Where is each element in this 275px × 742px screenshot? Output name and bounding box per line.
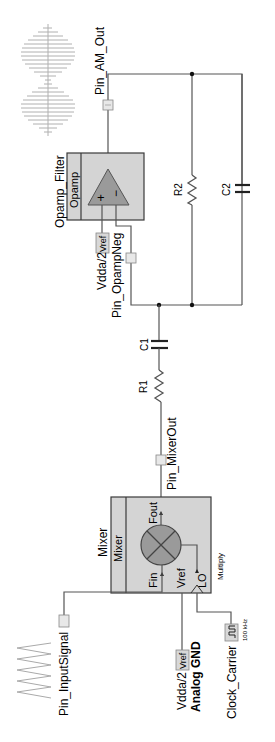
sine-input-waveform-icon: [17, 643, 51, 698]
clock-carrier-net[interactable]: 100 kHz Clock_Carrier: [197, 593, 248, 719]
opamp-plus-symbol: +: [97, 190, 105, 205]
capacitor-c2[interactable]: C2: [221, 74, 250, 196]
analog-gnd-label: Analog GND: [189, 641, 203, 712]
mixer-vref-label: Vref: [175, 567, 187, 588]
pin-tag-icon: [59, 615, 69, 627]
opamp-minus-symbol: −: [109, 190, 123, 197]
c2-label: C2: [221, 183, 232, 196]
vref-tag-label: Vref: [98, 235, 108, 252]
c1-label: C1: [139, 338, 150, 351]
resistor-r1[interactable]: R1: [138, 370, 163, 402]
mixer-block[interactable]: Mixer Fout Fin Vref LO Multiply: [111, 497, 225, 593]
capacitor-c1[interactable]: C1: [139, 305, 168, 370]
vref-tag-label: Vref: [178, 652, 188, 669]
pin-opamp-neg-label[interactable]: Pin_OpampNeg: [110, 233, 124, 318]
clock-carrier-label: Clock_Carrier: [225, 646, 239, 719]
mixer-type-label: Mixer: [112, 535, 124, 562]
junction-dot: [190, 72, 194, 76]
opamp-type-label: Opamp: [68, 172, 80, 208]
mixer-mode-label: Multiply: [216, 553, 225, 580]
pin-am-out-label: Pin_AM_Out: [93, 26, 107, 95]
vdda-label-mixer: Vdda/2: [175, 672, 189, 710]
pin-tag-icon: [126, 253, 136, 263]
mixer-fout-label: Fout: [147, 502, 159, 524]
resistor-r2[interactable]: R2: [173, 175, 196, 205]
am-output-waveform-icon: [21, 24, 75, 136]
pin-input-signal-label[interactable]: Pin_InputSignal: [57, 632, 71, 716]
mixer-vref-net: Vref Vdda/2 Analog GND: [175, 593, 203, 712]
multiply-symbol-icon: [141, 525, 181, 565]
r2-label: R2: [173, 183, 184, 196]
r1-label: R1: [138, 380, 149, 393]
junction-dot: [190, 303, 194, 307]
mixer-fin-label: Fin: [147, 573, 159, 588]
mixer-instance-name: Mixer: [96, 528, 110, 557]
pin-am-out[interactable]: Pin_AM_Out: [93, 26, 113, 110]
clock-frequency-label: 100 kHz: [242, 619, 248, 641]
pin-mixer-out-label[interactable]: Pin_MixerOut: [165, 417, 179, 490]
vdda-label-opamp: Vdda/2: [95, 252, 109, 290]
opamp-instance-name: Opamp_Filter: [53, 155, 67, 228]
schematic-canvas: Pin_AM_Out R2 C2 + − Opamp Opamp_Filter …: [0, 0, 275, 742]
opamp-filter-block[interactable]: + − Opamp: [67, 153, 144, 220]
